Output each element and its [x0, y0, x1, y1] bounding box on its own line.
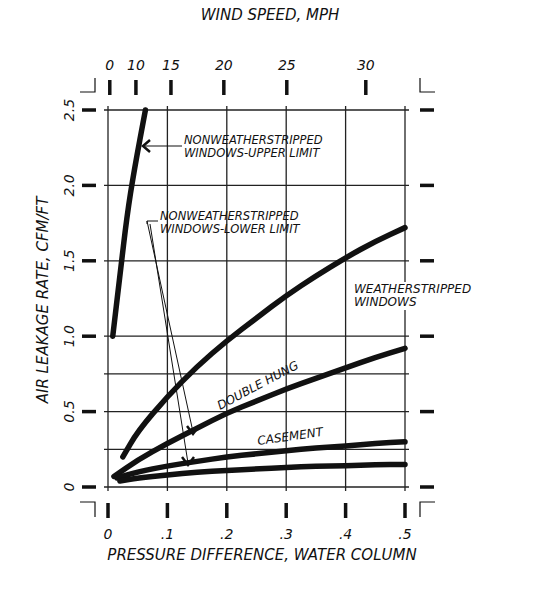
- x-tick-label: .3: [280, 526, 293, 542]
- x-tick-label: .2: [220, 526, 233, 542]
- y-tick-label: 0.5: [61, 400, 77, 422]
- x-axis-title: PRESSURE DIFFERENCE, WATER COLUMN: [107, 546, 416, 564]
- x2-axis-title: WIND SPEED, MPH: [201, 6, 340, 24]
- y-axis-title: AIR LEAKAGE RATE, CFM/FT: [34, 195, 52, 404]
- label-weatherstripped-line1: WEATHERSTRIPPED: [354, 282, 471, 296]
- series-line-0: [113, 110, 146, 336]
- label-casement: CASEMENT: [256, 425, 325, 448]
- corner-bracket: [420, 502, 435, 517]
- wind-speed-tick-labels: 01015202530: [105, 57, 374, 73]
- annotation-upper-limit: NONWEATHERSTRIPPED WINDOWS-UPPER LIMIT: [143, 133, 323, 160]
- corner-bracket: [80, 78, 95, 92]
- label-lower-limit-line2: WINDOWS-LOWER LIMIT: [160, 222, 301, 236]
- label-upper-limit-line2: WINDOWS-UPPER LIMIT: [184, 146, 320, 160]
- y-tick-label: 0: [61, 482, 77, 491]
- x-tick-label: .4: [339, 526, 352, 542]
- series-line-1: [123, 228, 405, 457]
- x2-tick-label: 25: [278, 57, 296, 73]
- y-tick-label: 2.0: [61, 174, 77, 196]
- series-line-2: [114, 348, 405, 476]
- corner-bracket: [420, 78, 435, 92]
- x2-tick-label: 0: [105, 57, 114, 73]
- x-tick-label: .1: [161, 526, 174, 542]
- x-axis-tick-labels: 0.1.2.3.4.5: [104, 526, 412, 542]
- x2-tick-label: 10: [127, 57, 145, 73]
- x-tick-label: .5: [398, 526, 411, 542]
- y-axis-tick-labels: 00.51.01.52.02.5: [61, 99, 77, 492]
- label-upper-limit-line1: NONWEATHERSTRIPPED: [184, 133, 323, 147]
- annotation-lower-limit: NONWEATHERSTRIPPED WINDOWS-LOWER LIMIT: [147, 209, 301, 465]
- y-tick-label: 2.5: [61, 99, 77, 121]
- label-weatherstripped-line2: WINDOWS: [354, 295, 417, 309]
- annotation-weatherstripped: WEATHERSTRIPPED WINDOWS: [352, 282, 522, 310]
- label-lower-limit-line1: NONWEATHERSTRIPPED: [160, 209, 299, 223]
- x2-tick-label: 30: [357, 57, 375, 73]
- label-double-hung: DOUBLE HUNG: [215, 358, 301, 413]
- air-leakage-chart: 0.1.2.3.4.5 00.51.01.52.02.5 01015202530…: [0, 0, 538, 605]
- x2-tick-label: 15: [162, 57, 180, 73]
- corner-bracket: [80, 502, 95, 517]
- y-tick-label: 1.0: [61, 325, 77, 347]
- y-tick-label: 1.5: [61, 250, 77, 272]
- x-tick-label: 0: [104, 526, 113, 542]
- x2-tick-label: 20: [215, 57, 233, 73]
